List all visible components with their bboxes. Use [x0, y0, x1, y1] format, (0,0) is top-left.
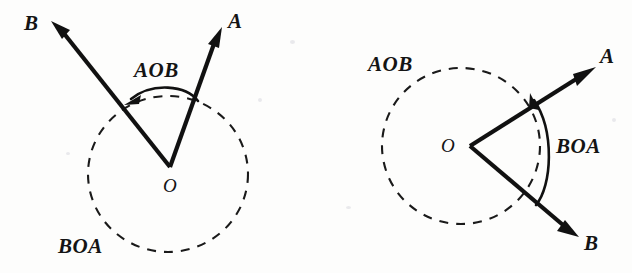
figure-container: B A AOB O BOA AOB A O BOA B [0, 0, 632, 273]
left-label-angle-aob: AOB [134, 60, 179, 81]
right-label-angle-aob: AOB [368, 54, 413, 75]
left-label-vertex-o: O [163, 176, 177, 195]
left-diagram-group [51, 21, 248, 252]
right-angle-arc [534, 100, 549, 205]
right-dashed-circle [382, 68, 540, 224]
right-ray-oa-arrowhead [573, 67, 596, 86]
left-ray-oa-arrowhead [208, 27, 222, 48]
left-label-b: B [24, 13, 39, 34]
right-label-b: B [584, 233, 599, 254]
left-label-angle-boa: BOA [58, 236, 103, 257]
left-label-a: A [228, 11, 243, 32]
right-label-a: A [600, 46, 615, 67]
figure-drawing [0, 0, 632, 273]
left-dashed-circle [88, 96, 248, 252]
right-label-vertex-o: O [441, 136, 455, 155]
left-ray-ob [62, 31, 170, 167]
right-label-angle-boa: BOA [556, 136, 601, 157]
